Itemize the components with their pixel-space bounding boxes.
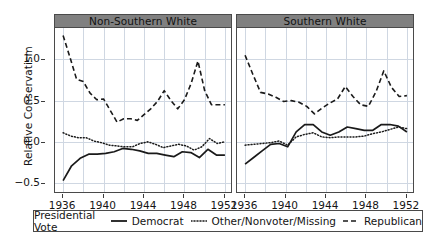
- legend: Presidential Vote Democrat Other/Nonvote…: [33, 210, 423, 232]
- plot-area-0: [54, 28, 232, 193]
- legend-swatch-dashed: [343, 215, 359, 227]
- series-layer: [237, 28, 414, 193]
- y-tick-mark: [41, 59, 45, 60]
- x-tick-mark: [224, 194, 225, 198]
- series-layer: [55, 28, 232, 193]
- panel-strip-label-1: Southern White: [236, 14, 414, 28]
- x-tick-mark: [244, 194, 245, 198]
- y-tick-label: 0.0: [12, 136, 40, 146]
- x-tick-mark: [103, 194, 104, 198]
- series-line-other-nonvoter-missing: [63, 133, 225, 150]
- x-tick-mark: [62, 194, 63, 198]
- y-tick-label: 1.0: [12, 53, 40, 63]
- series-line-republican: [63, 35, 225, 122]
- y-tick-label: −0.5: [12, 177, 40, 187]
- legend-title: Presidential Vote: [34, 209, 102, 233]
- legend-entry-democrat: Democrat: [111, 215, 184, 227]
- y-axis-ticks: −0.50.00.51.0: [0, 0, 40, 242]
- series-line-democrat: [245, 125, 407, 165]
- series-line-democrat: [63, 148, 225, 180]
- x-tick-mark: [325, 194, 326, 198]
- legend-swatch-solid: [111, 215, 127, 227]
- y-tick-mark: [41, 183, 45, 184]
- chart-figure: Relative Conservatism −0.50.00.51.0 Non-…: [0, 0, 431, 242]
- y-tick-mark: [41, 142, 45, 143]
- panel-strip-label-0: Non-Southern White: [54, 14, 232, 28]
- legend-label-republican: Republican: [364, 215, 422, 227]
- y-tick-mark: [41, 101, 45, 102]
- plot-area-1: [236, 28, 414, 193]
- panel-southern-white: Southern White: [236, 14, 414, 193]
- panel-non-southern-white: Non-Southern White: [54, 14, 232, 193]
- legend-label-other: Other/Nonvoter/Missing: [212, 215, 337, 227]
- x-tick-mark: [143, 194, 144, 198]
- legend-entry-republican: Republican: [343, 215, 422, 227]
- x-tick-mark: [285, 194, 286, 198]
- legend-swatch-dotted: [191, 215, 207, 227]
- x-tick-mark: [183, 194, 184, 198]
- legend-label-democrat: Democrat: [132, 215, 184, 227]
- legend-entry-other: Other/Nonvoter/Missing: [191, 215, 337, 227]
- x-tick-mark: [365, 194, 366, 198]
- series-line-other-nonvoter-missing: [245, 127, 407, 145]
- y-tick-label: 0.5: [12, 95, 40, 105]
- x-tick-mark: [406, 194, 407, 198]
- series-line-republican: [245, 55, 407, 114]
